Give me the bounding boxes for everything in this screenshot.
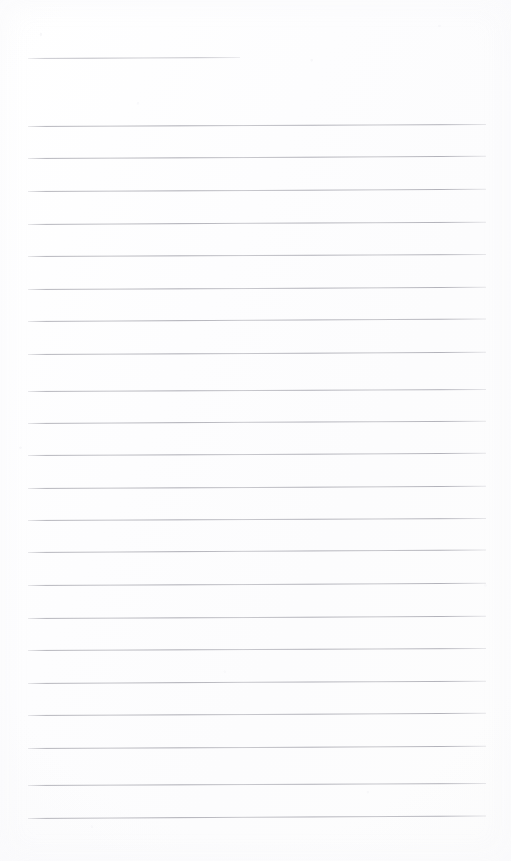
ruled-line [28,583,486,586]
ruled-line [28,616,486,619]
ruled-line [28,816,486,819]
ruled-line [28,352,486,355]
ruled-line [28,550,486,553]
ruled-line [28,713,486,716]
ruled-line [28,518,486,521]
ruled-line [28,57,240,59]
ruled-line [28,254,486,257]
paper-grain-overlay [0,0,511,861]
ruled-line [28,486,486,489]
ruled-line [28,124,486,127]
ruled-line [28,746,486,749]
scanned-paper-page [0,0,511,861]
ruled-line [28,421,486,424]
paper-texture-overlay [0,0,511,861]
ruled-line [28,189,486,192]
ruled-line [28,287,486,290]
ruled-line [28,453,486,456]
ruled-line [28,319,486,322]
ruled-line [28,783,486,786]
ruled-line [28,222,486,225]
sheet-edge-vignette [0,0,511,861]
ruled-line [28,389,486,392]
ruled-line [28,681,486,684]
ruled-line [28,156,486,159]
ruled-line [28,648,486,651]
